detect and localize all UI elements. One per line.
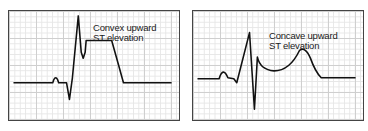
- label-convex-line2: ST elevation: [93, 33, 143, 43]
- ecg-panel-convex: Convex upward ST elevation: [8, 10, 180, 121]
- label-concave-line2: ST elevation: [269, 41, 319, 51]
- ecg-panel-concave: Concave upward ST elevation: [192, 10, 364, 121]
- ecg-trace-concave: [193, 11, 363, 120]
